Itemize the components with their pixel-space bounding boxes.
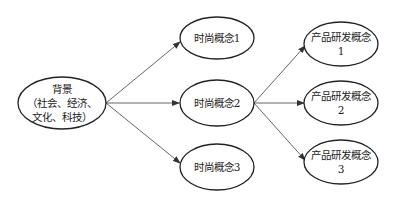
edge-fashion2-to-product1 bbox=[254, 46, 305, 103]
edge-fashion2-to-product3 bbox=[254, 103, 305, 160]
node-background-title: 背景 bbox=[27, 82, 97, 96]
edge-background-to-fashion1 bbox=[106, 42, 180, 103]
node-fashion1-label: 时尚概念1 bbox=[194, 31, 241, 45]
node-product3-label: 产品研发概念 3 bbox=[311, 148, 371, 176]
node-product3-title: 产品研发概念 bbox=[311, 148, 371, 162]
node-background-subtitle-line1: （社会、经济、 bbox=[27, 96, 97, 110]
node-background-subtitle-line2: 文化、科技） bbox=[27, 110, 97, 124]
node-product2-title: 产品研发概念 bbox=[311, 89, 371, 103]
node-product2-label: 产品研发概念 2 bbox=[311, 89, 371, 117]
node-product3-number: 3 bbox=[311, 162, 371, 176]
node-fashion2-label: 时尚概念2 bbox=[194, 96, 241, 110]
node-product1-title: 产品研发概念 bbox=[311, 30, 371, 44]
edge-background-to-fashion3 bbox=[106, 103, 180, 163]
node-fashion3-label: 时尚概念3 bbox=[194, 160, 241, 174]
node-product1-number: 1 bbox=[311, 44, 371, 58]
node-product1-label: 产品研发概念 1 bbox=[311, 30, 371, 58]
node-background-label: 背景 （社会、经济、 文化、科技） bbox=[27, 82, 97, 124]
node-product2-number: 2 bbox=[311, 103, 371, 117]
